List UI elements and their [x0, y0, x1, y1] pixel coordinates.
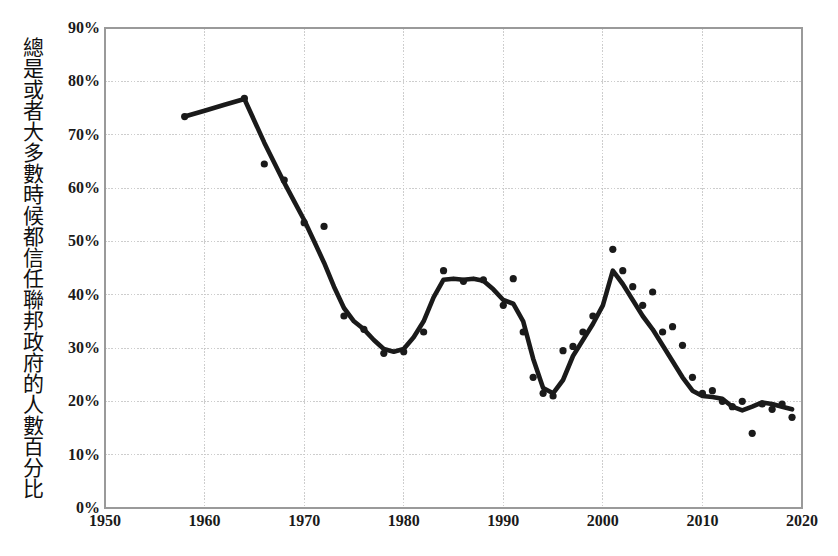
x-tick-label: 2020: [762, 512, 838, 530]
plot-frame: [105, 28, 802, 508]
trust-in-government-chart: 總是或者大多數時候都信任聯邦政府的人數百分比 0%10%20%30%40%50%…: [0, 0, 838, 556]
x-tick-label: 1980: [364, 512, 444, 530]
x-tick-label: 1960: [165, 512, 245, 530]
x-tick-label: 1990: [463, 512, 543, 530]
trend-line: [185, 99, 792, 410]
x-tick-label: 1970: [264, 512, 344, 530]
x-tick-label: 2000: [563, 512, 643, 530]
x-tick-label: 2010: [662, 512, 742, 530]
data-points: [181, 95, 796, 437]
plot-area: [0, 0, 838, 556]
gridlines: [105, 28, 802, 508]
x-tick-label: 1950: [65, 512, 145, 530]
